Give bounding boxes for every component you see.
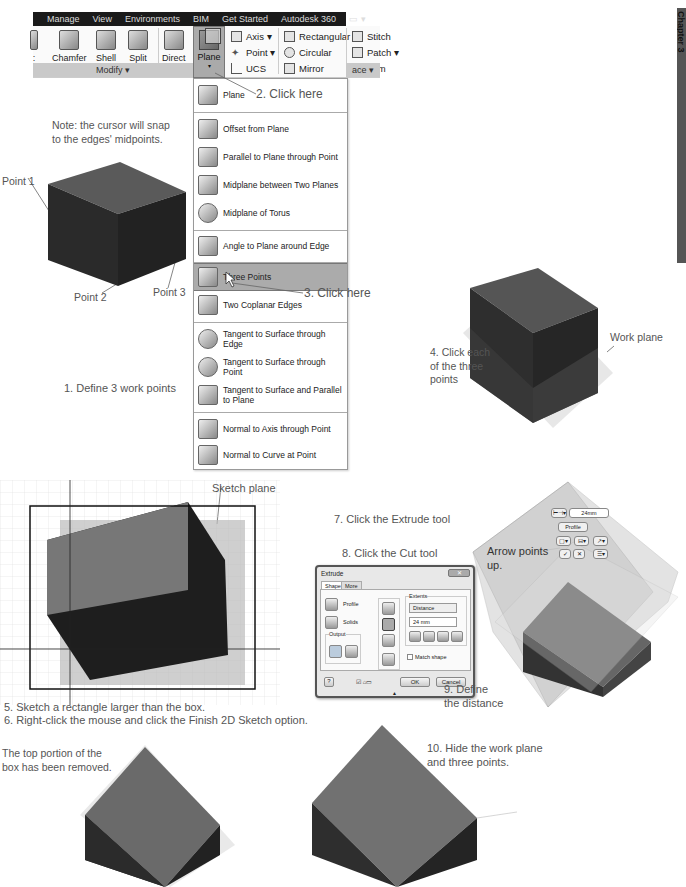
output-mini-button[interactable]: ▢▾ <box>556 536 571 546</box>
direction-symmetric-icon[interactable] <box>437 631 449 642</box>
cut-box-result <box>80 745 240 887</box>
operation-mini-button[interactable]: ⊟▾ <box>574 536 589 546</box>
output-group: Output <box>325 634 361 664</box>
shape-panel: Profile Solids Output Extents Distance 2… <box>320 589 471 671</box>
point2-label: Point 2 <box>74 291 107 305</box>
final-wedge-model <box>312 725 517 887</box>
direction-asymmetric-icon[interactable] <box>451 631 463 642</box>
cancel-mini-button[interactable]: ✕ <box>573 549 585 559</box>
cut-icon[interactable] <box>382 618 395 631</box>
match-shape-checkbox[interactable]: Match shape <box>407 654 447 660</box>
step4-callout: 4. Click each of the three points <box>430 346 490 387</box>
step1-callout: 1. Define 3 work points <box>64 381 176 395</box>
preview-toggle[interactable]: ☑ ⌂▭ <box>356 678 372 685</box>
direction-flipped-icon[interactable] <box>423 631 435 642</box>
extents-group: Extents Distance 24 mm <box>405 596 467 646</box>
step3-callout: 3. Click here <box>304 286 371 302</box>
ok-button[interactable]: OK <box>400 677 430 687</box>
new-solid-icon[interactable] <box>382 653 395 666</box>
output-solid-icon[interactable] <box>329 645 342 658</box>
expand-arrow-icon[interactable]: ▲ <box>392 690 397 696</box>
chapter-tab: Chapter 3 <box>677 8 686 263</box>
direction-default-icon[interactable] <box>409 631 421 642</box>
extrude-dialog: Extrude ✕ Shape More Profile Solids Outp… <box>315 565 475 698</box>
distance-input[interactable]: 24 mm <box>409 617 457 627</box>
ok-mini-button[interactable]: ✓ <box>559 549 571 559</box>
extents-dropdown[interactable]: Distance <box>409 603 457 613</box>
help-button[interactable]: ? <box>324 677 334 687</box>
distance-mini-input[interactable]: 24mm <box>569 508 609 518</box>
arrow-up-callout: Arrow points up. <box>487 544 548 573</box>
step2-callout: 2. Click here <box>256 87 323 103</box>
options-mini-button[interactable]: ☰▾ <box>593 549 608 559</box>
profile-select-icon[interactable] <box>325 598 338 611</box>
step6-callout: 6. Right-click the mouse and click the F… <box>4 713 308 727</box>
intersect-icon[interactable] <box>382 634 395 647</box>
box-model-1 <box>48 162 188 287</box>
work-plane-label: Work plane <box>610 331 663 345</box>
sketch-plane-label: Sketch plane <box>212 481 276 495</box>
operation-group <box>378 598 400 670</box>
profile-mini-button[interactable]: Profile <box>558 522 588 532</box>
note-callout: Note: the cursor will snap to the edges'… <box>52 119 170 146</box>
direction-mini-button[interactable]: ↗▾ <box>593 536 608 546</box>
output-surface-icon[interactable] <box>345 645 358 658</box>
join-icon[interactable] <box>382 602 395 615</box>
step7-callout: 7. Click the Extrude tool <box>334 512 450 526</box>
extents-mini-button[interactable]: ⊢⊣▾ <box>551 508 567 518</box>
point1-label: Point 1 <box>2 175 35 189</box>
point3-label: Point 3 <box>153 286 186 300</box>
step8-callout: 8. Click the Cut tool <box>342 546 437 560</box>
dialog-title: Extrude <box>321 570 343 577</box>
sketch-grid-view <box>0 480 280 705</box>
close-button[interactable]: ✕ <box>448 569 470 577</box>
solids-select-icon[interactable] <box>325 616 338 629</box>
